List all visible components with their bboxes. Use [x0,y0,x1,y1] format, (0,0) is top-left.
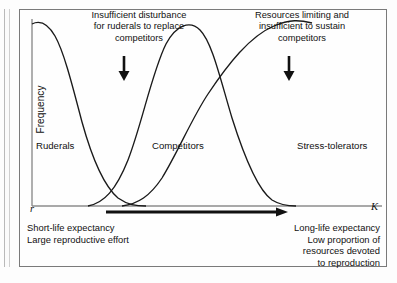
curve-stress-tolerators [122,21,312,206]
curve-label-stress-tolerators: Stress-tolerators [297,140,367,151]
x-axis-start-label: r [30,203,34,214]
down-arrow-icon-right [282,56,296,82]
bottom-note-left: Short-life expectancy Large reproductive… [27,222,207,245]
curve-competitors [88,25,296,206]
down-arrow-icon-left [117,56,131,82]
curve-ruderals [32,23,146,207]
figure-container: Frequency Insufficient disturbance for r… [0,0,397,283]
bottom-note-right: Long-life expectancy Low proportion of r… [228,222,380,268]
gradient-arrow [106,208,288,217]
annotation-insufficient-disturbance: Insufficient disturbance for ruderals to… [54,10,224,44]
curve-label-ruderals: Ruderals [36,140,74,151]
x-axis-end-label: K [371,201,378,212]
curve-label-competitors: Competitors [152,140,204,151]
annotation-resources-limiting: Resources limiting and insufficient to s… [216,10,388,44]
